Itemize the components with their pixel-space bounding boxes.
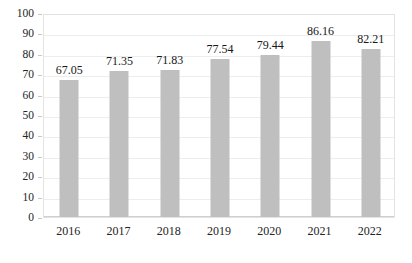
bar-group: 71.83 bbox=[145, 15, 195, 217]
bar bbox=[311, 41, 330, 217]
bar-group: 77.54 bbox=[195, 15, 245, 217]
bar-group: 71.35 bbox=[94, 15, 144, 217]
y-axis-tick-label: 80 bbox=[0, 49, 34, 61]
x-axis-tick-label: 2017 bbox=[106, 224, 130, 238]
y-axis-tick-label: 0 bbox=[0, 212, 34, 224]
x-axis-tick-label: 2021 bbox=[308, 224, 332, 238]
y-axis-tick-label: 60 bbox=[0, 90, 34, 102]
bar bbox=[210, 59, 229, 217]
y-axis-tick-label: 10 bbox=[0, 192, 34, 204]
x-axis-tick-label: 2019 bbox=[207, 224, 231, 238]
y-axis-tick-mark bbox=[38, 34, 42, 35]
bar-data-label: 77.54 bbox=[206, 43, 233, 55]
bar-data-label: 71.83 bbox=[156, 54, 183, 66]
bar-data-label: 67.05 bbox=[56, 64, 83, 76]
y-axis-tick-mark bbox=[38, 218, 42, 219]
y-axis-tick-label: 90 bbox=[0, 29, 34, 41]
x-axis-tick-label: 2018 bbox=[157, 224, 181, 238]
bar bbox=[261, 55, 280, 217]
bar-data-label: 71.35 bbox=[106, 55, 133, 67]
y-axis-tick-mark bbox=[38, 55, 42, 56]
bar bbox=[160, 70, 179, 217]
bar-data-label: 86.16 bbox=[307, 25, 334, 37]
bar-data-label: 79.44 bbox=[257, 39, 284, 51]
bar-group: 86.16 bbox=[295, 15, 345, 217]
x-axis-tick-label: 2016 bbox=[56, 224, 80, 238]
y-axis-tick-label: 20 bbox=[0, 171, 34, 183]
y-axis-tick-label: 50 bbox=[0, 110, 34, 122]
y-axis-tick-label: 40 bbox=[0, 131, 34, 143]
bar-group: 79.44 bbox=[245, 15, 295, 217]
y-axis-tick-mark bbox=[38, 198, 42, 199]
y-axis-tick-mark bbox=[38, 96, 42, 97]
bar bbox=[60, 80, 79, 217]
plot-area: 67.0571.3571.8377.5479.4486.1682.21 bbox=[43, 14, 395, 218]
y-axis-tick-label: 30 bbox=[0, 151, 34, 163]
y-axis-tick-mark bbox=[38, 14, 42, 15]
y-axis-tick-mark bbox=[38, 136, 42, 137]
y-axis-tick-mark bbox=[38, 116, 42, 117]
y-axis-tick-mark bbox=[38, 75, 42, 76]
y-axis-tick-labels: 1009080706050403020100 bbox=[0, 14, 34, 218]
bar bbox=[361, 49, 380, 217]
y-axis-tick-mark bbox=[38, 177, 42, 178]
x-axis-tick-labels: 2016201720182019202020212022 bbox=[43, 224, 395, 242]
bar-group: 67.05 bbox=[44, 15, 94, 217]
y-axis-tick-label: 70 bbox=[0, 69, 34, 81]
bar-group: 82.21 bbox=[346, 15, 396, 217]
bar-chart: 1009080706050403020100 67.0571.3571.8377… bbox=[0, 0, 412, 263]
x-axis-tick-label: 2020 bbox=[257, 224, 281, 238]
y-axis-tick-label: 100 bbox=[0, 8, 34, 20]
y-axis-tick-mark bbox=[38, 157, 42, 158]
x-axis-tick-label: 2022 bbox=[358, 224, 382, 238]
bar-data-label: 82.21 bbox=[357, 33, 384, 45]
bar-series: 67.0571.3571.8377.5479.4486.1682.21 bbox=[44, 15, 394, 217]
bar bbox=[110, 71, 129, 217]
